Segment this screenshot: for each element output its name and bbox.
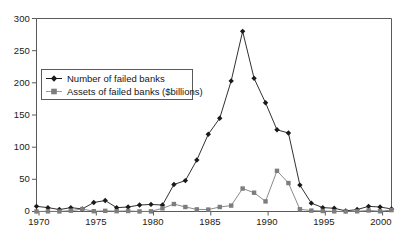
data-point-square xyxy=(103,209,107,213)
y-axis-tick-300: 300 xyxy=(4,13,30,24)
data-point-diamond xyxy=(91,200,96,205)
data-point-diamond xyxy=(103,198,108,203)
data-point-square xyxy=(298,207,302,211)
data-point-diamond xyxy=(171,182,176,187)
x-axis-tick-2000: 2000 xyxy=(364,216,398,227)
data-point-diamond xyxy=(194,157,199,162)
data-point-diamond xyxy=(148,202,153,207)
series-line xyxy=(37,31,392,210)
chart-figure: 300 250 200 150 100 50 0 1970 1975 1980 … xyxy=(0,0,404,241)
data-point-diamond xyxy=(251,76,256,81)
data-point-square xyxy=(332,209,336,213)
data-point-square xyxy=(240,186,244,190)
x-axis-tick-1980: 1980 xyxy=(136,216,170,227)
x-axis-tick-1990: 1990 xyxy=(250,216,284,227)
data-point-diamond xyxy=(286,130,291,135)
plot-area: Number of failed banks Assets of failed … xyxy=(0,0,404,241)
x-axis-tick-1975: 1975 xyxy=(79,216,113,227)
data-point-square xyxy=(366,208,370,212)
data-point-diamond xyxy=(263,100,268,105)
series-1 xyxy=(34,29,394,214)
data-point-square xyxy=(92,209,96,213)
data-point-diamond xyxy=(137,202,142,207)
data-point-square xyxy=(321,209,325,213)
data-point-square xyxy=(206,207,210,211)
data-point-square xyxy=(126,209,130,213)
data-point-diamond xyxy=(240,29,245,34)
legend-label-assets-of-failed-banks: Assets of failed banks ($billions) xyxy=(67,86,203,97)
axis-frame xyxy=(37,19,392,212)
data-point-square xyxy=(183,205,187,209)
data-point-diamond xyxy=(183,178,188,183)
data-point-square xyxy=(195,207,199,211)
data-point-square xyxy=(160,206,164,210)
data-point-square xyxy=(114,209,118,213)
data-point-square xyxy=(34,209,38,213)
y-axis-tick-100: 100 xyxy=(4,141,30,152)
x-axis-tick-1995: 1995 xyxy=(307,216,341,227)
data-point-square xyxy=(172,202,176,206)
data-point-diamond xyxy=(34,204,39,209)
data-point-diamond xyxy=(377,204,382,209)
y-axis-tick-250: 250 xyxy=(4,45,30,56)
data-point-diamond xyxy=(297,182,302,187)
legend-label-number-of-failed-banks: Number of failed banks xyxy=(67,73,165,84)
data-point-square xyxy=(229,203,233,207)
data-point-square xyxy=(218,205,222,209)
data-point-square xyxy=(137,209,141,213)
x-axis-ticks xyxy=(39,212,383,216)
data-point-square xyxy=(275,169,279,173)
y-axis-tick-0: 0 xyxy=(4,205,30,216)
y-axis-ticks xyxy=(32,19,37,212)
data-point-square xyxy=(378,209,382,213)
y-axis-tick-150: 150 xyxy=(4,109,30,120)
data-point-square xyxy=(252,191,256,195)
series-2 xyxy=(34,169,393,214)
data-point-square xyxy=(149,209,153,213)
data-point-diamond xyxy=(309,200,314,205)
data-point-diamond xyxy=(274,127,279,132)
data-point-square xyxy=(355,209,359,213)
data-point-diamond xyxy=(228,78,233,83)
x-axis-tick-1970: 1970 xyxy=(22,216,56,227)
data-point-square xyxy=(263,199,267,203)
data-point-square xyxy=(80,207,84,211)
data-point-diamond xyxy=(366,204,371,209)
data-point-square xyxy=(343,209,347,213)
y-axis-tick-200: 200 xyxy=(4,77,30,88)
data-point-square xyxy=(286,181,290,185)
y-axis-tick-50: 50 xyxy=(4,173,30,184)
data-point-square xyxy=(389,208,393,212)
data-point-square xyxy=(46,209,50,213)
data-series-layer xyxy=(34,29,394,214)
legend-marker-square xyxy=(51,89,57,95)
chart-legend: Number of failed banks Assets of failed … xyxy=(42,70,203,100)
data-point-square xyxy=(309,208,313,212)
x-axis-tick-1985: 1985 xyxy=(193,216,227,227)
data-point-square xyxy=(57,209,61,213)
data-point-square xyxy=(69,208,73,212)
series-line xyxy=(37,171,392,212)
